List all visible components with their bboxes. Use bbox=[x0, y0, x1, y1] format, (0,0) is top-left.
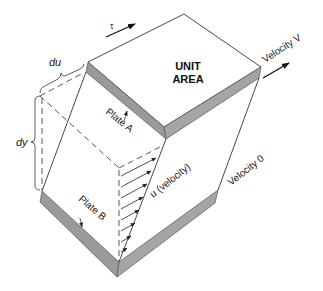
velocity-0-label: Velocity 0 bbox=[225, 152, 266, 187]
tau-label: τ bbox=[110, 21, 114, 31]
dy-brace bbox=[31, 96, 40, 190]
dashed-top-left bbox=[40, 73, 83, 96]
velocity-v-arrow bbox=[263, 63, 289, 78]
dashed-top-right bbox=[119, 147, 160, 168]
du-brace bbox=[40, 64, 84, 93]
fluid-shear-diagram: du dy τ UNIT AREA Velocity V Plate A Pla… bbox=[0, 0, 323, 291]
velocity-profile-arrows bbox=[121, 158, 156, 252]
du-label: du bbox=[49, 56, 61, 68]
dy-label: dy bbox=[16, 136, 29, 148]
plate-b-label: Plate B bbox=[77, 193, 109, 222]
unit-area-label-line2: AREA bbox=[172, 73, 203, 85]
plate-b-left-band bbox=[40, 191, 119, 277]
plate-b-pointer bbox=[80, 218, 82, 227]
plate-a-label: Plate A bbox=[104, 106, 136, 134]
dashed-diagonal bbox=[40, 96, 119, 168]
unit-area-label-line1: UNIT bbox=[175, 60, 201, 72]
velocity-v-label: Velocity V bbox=[260, 31, 303, 64]
u-velocity-label: u (velocity) bbox=[147, 161, 192, 199]
